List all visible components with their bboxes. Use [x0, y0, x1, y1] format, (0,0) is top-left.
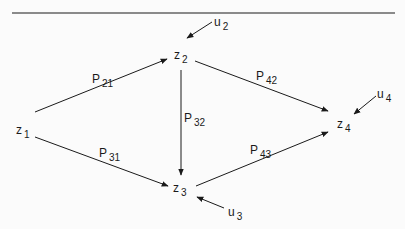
disturbance-u3: u3 [228, 206, 242, 218]
node-z1: z1 [16, 124, 30, 136]
edge-label-p31: P31 [99, 147, 120, 159]
node-z4: z4 [337, 118, 351, 130]
edge-label-p43: P43 [250, 144, 271, 156]
edge-label-p42: P42 [256, 70, 277, 82]
disturbance-u2: u2 [214, 16, 228, 28]
node-z3: z3 [173, 182, 187, 194]
node-z2: z2 [174, 49, 188, 61]
arrow-z1-to-z3 [35, 137, 168, 186]
path-diagram: z1 z2 z3 z4 u2 u3 u4 P21 P31 P32 P42 P43 [0, 0, 405, 229]
arrow-u4-to-z4 [354, 96, 376, 114]
arrow-u3-to-z3 [197, 197, 224, 208]
disturbance-u4: u4 [377, 88, 391, 100]
arrow-z1-to-z2 [35, 59, 167, 112]
edge-label-p21: P21 [92, 73, 113, 85]
edge-label-p32: P32 [184, 112, 205, 124]
arrow-u2-to-z2 [187, 22, 212, 38]
